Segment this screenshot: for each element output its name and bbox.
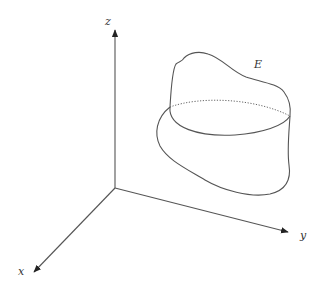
y-axis-label: y (300, 230, 306, 241)
cross-section-back-arc (170, 100, 290, 116)
diagram-canvas: z x y E (0, 0, 322, 290)
cross-section-front-arc (170, 107, 290, 135)
axes-and-region-drawing (0, 0, 322, 290)
x-axis-label: x (18, 266, 24, 277)
z-axis-label: z (105, 16, 111, 27)
region-e-label: E (254, 59, 262, 70)
x-axis (34, 188, 115, 272)
